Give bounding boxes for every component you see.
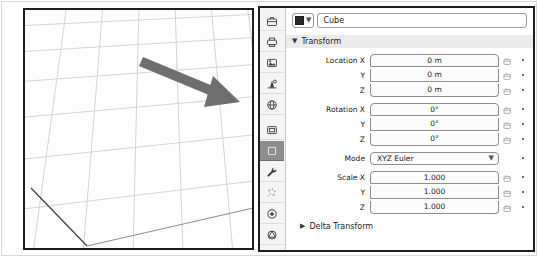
mode-group: Mode XYZ Euler ▼ xyxy=(292,151,527,165)
chevron-down-icon: ▼ xyxy=(489,155,494,162)
rotation-z-row: Z 0° xyxy=(292,132,527,146)
physics-orbit-icon xyxy=(266,208,278,220)
rotation-z-decorators xyxy=(499,130,527,149)
collection-tab[interactable] xyxy=(260,120,284,140)
view-layer-tab[interactable] xyxy=(260,53,284,73)
properties-editor: ▼ Cube ▼ Transform Location X 0 m xyxy=(258,6,535,252)
cone-sphere-icon xyxy=(266,78,278,90)
printer-icon xyxy=(266,36,278,48)
decorator-dot-icon[interactable] xyxy=(522,138,525,141)
scale-x-row: Scale X 1.000 xyxy=(292,170,527,184)
chevron-down-icon: ▼ xyxy=(292,38,297,45)
rotation-mode-dropdown[interactable]: XYZ Euler ▼ xyxy=(370,152,499,165)
location-z-row: Z 0 m xyxy=(292,83,527,97)
location-x-label: Location X xyxy=(292,56,370,65)
animate-icon[interactable] xyxy=(503,198,512,217)
rotation-z-input[interactable]: 0° xyxy=(370,133,499,146)
particles-tab[interactable] xyxy=(260,183,284,203)
output-tab[interactable] xyxy=(260,32,284,52)
location-group: Location X 0 m Y 0 m xyxy=(292,53,527,97)
object-name-row: ▼ Cube xyxy=(292,13,527,28)
mode-label: Mode xyxy=(292,154,370,163)
globe-icon xyxy=(266,99,278,111)
mesh-data-icon xyxy=(266,229,278,241)
wrench-icon xyxy=(266,166,278,178)
rotation-mode-value: XYZ Euler xyxy=(377,154,414,163)
modifiers-tab[interactable] xyxy=(260,162,284,182)
rotation-y-row: Y 0° xyxy=(292,117,527,131)
scale-group: Scale X 1.000 Y 1.000 xyxy=(292,170,527,214)
rotation-x-input[interactable]: 0° xyxy=(370,103,499,116)
scale-z-label: Z xyxy=(292,203,370,212)
object-id-icon xyxy=(295,16,304,25)
scale-y-label: Y xyxy=(292,188,370,197)
transform-panel-header[interactable]: ▼ Transform xyxy=(286,35,533,48)
scale-z-input[interactable]: 1.000 xyxy=(370,201,499,214)
decorator-dot-icon[interactable] xyxy=(522,157,525,160)
animate-icon[interactable] xyxy=(503,81,512,100)
scale-y-row: Y 1.000 xyxy=(292,185,527,199)
delta-transform-panel-header[interactable]: ▶ Delta Transform xyxy=(292,220,527,233)
decorator-dot-icon[interactable] xyxy=(522,123,525,126)
collection-box-icon xyxy=(266,124,278,136)
scale-y-input[interactable]: 1.000 xyxy=(370,186,499,199)
tool-tab[interactable] xyxy=(260,11,284,31)
location-y-row: Y 0 m xyxy=(292,68,527,82)
orange-square-icon xyxy=(266,145,278,157)
scale-z-row: Z 1.000 xyxy=(292,200,527,214)
particles-icon xyxy=(266,187,278,199)
object-name-input[interactable]: Cube xyxy=(317,13,527,28)
transform-panel-title: Transform xyxy=(301,37,341,46)
rotation-y-input[interactable]: 0° xyxy=(370,118,499,131)
location-x-input[interactable]: 0 m xyxy=(370,54,499,67)
rotation-z-label: Z xyxy=(292,135,370,144)
location-x-row: Location X 0 m xyxy=(292,53,527,67)
chevron-right-icon: ▶ xyxy=(300,223,305,230)
decorator-dot-icon[interactable] xyxy=(522,74,525,77)
decorator-dot-icon[interactable] xyxy=(522,191,525,194)
decorator-dot-icon[interactable] xyxy=(522,59,525,62)
3d-viewport[interactable] xyxy=(23,8,254,250)
images-icon xyxy=(266,57,278,69)
decorator-dot-icon[interactable] xyxy=(522,89,525,92)
delta-transform-title: Delta Transform xyxy=(309,222,373,231)
physics-tab[interactable] xyxy=(260,204,284,224)
rotation-group: Rotation X 0° Y 0° xyxy=(292,102,527,146)
screenshot-root: ▼ Cube ▼ Transform Location X 0 m xyxy=(0,0,539,258)
scale-x-input[interactable]: 1.000 xyxy=(370,171,499,184)
location-z-label: Z xyxy=(292,86,370,95)
location-z-input[interactable]: 0 m xyxy=(370,84,499,97)
object-data-tab[interactable] xyxy=(260,225,284,245)
scale-x-label: Scale X xyxy=(292,173,370,182)
toolbox-icon xyxy=(266,15,278,27)
mode-decorators xyxy=(499,153,527,163)
rotation-x-row: Rotation X 0° xyxy=(292,102,527,116)
animate-icon[interactable] xyxy=(503,130,512,149)
location-y-input[interactable]: 0 m xyxy=(370,69,499,82)
scene-tab[interactable] xyxy=(260,74,284,94)
decorator-spacer xyxy=(503,153,514,163)
world-tab[interactable] xyxy=(260,95,284,115)
mode-row: Mode XYZ Euler ▼ xyxy=(292,151,527,165)
location-z-decorators xyxy=(499,81,527,100)
location-y-label: Y xyxy=(292,71,370,80)
annotation-arrow-icon xyxy=(25,10,252,248)
scale-z-decorators xyxy=(499,198,527,217)
properties-content: ▼ Cube ▼ Transform Location X 0 m xyxy=(286,8,533,250)
decorator-dot-icon[interactable] xyxy=(522,108,525,111)
decorator-dot-icon[interactable] xyxy=(522,176,525,179)
rotation-x-label: Rotation X xyxy=(292,105,370,114)
rotation-y-label: Y xyxy=(292,120,370,129)
object-tab[interactable] xyxy=(260,141,284,161)
decorator-dot-icon[interactable] xyxy=(522,206,525,209)
chevron-down-icon: ▼ xyxy=(306,17,311,24)
properties-tab-column xyxy=(260,8,286,250)
object-id-selector[interactable]: ▼ xyxy=(292,13,314,28)
